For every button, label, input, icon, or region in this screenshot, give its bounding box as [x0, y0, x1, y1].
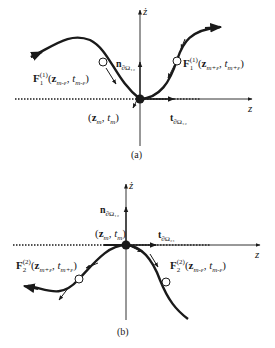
tangent-sub: ∂Ω₁₂	[173, 118, 187, 126]
point-zsub: m	[97, 118, 102, 126]
normal-label-a: n∂Ω₁₂	[116, 59, 135, 69]
point-label-a: (zm, tm)	[88, 112, 119, 123]
t-sub: m-ε	[212, 266, 222, 274]
tangent-label-b: t∂Ω₂₁	[158, 230, 175, 240]
F-sup: (1)	[190, 56, 198, 64]
F-sup: (2)	[177, 258, 185, 266]
curve-arrow-right-a	[205, 27, 221, 28]
point-zsub: m	[104, 234, 109, 242]
y-axis-label-a: ż	[143, 6, 147, 17]
switching-point-b	[122, 241, 131, 250]
x-axis-label-b: z	[255, 249, 259, 260]
open-point-right-a	[173, 57, 181, 65]
t-sub: m+ε	[228, 64, 241, 72]
normal-sub: ∂Ω₁₂	[106, 210, 120, 218]
open-point-left-b	[75, 275, 83, 283]
left-flow-label-a: F(1)1(zm-ε, tm-ε)	[33, 71, 89, 87]
point-tsub: m	[110, 118, 115, 126]
z-sub: m-ε	[193, 266, 203, 274]
F-sup: (1)	[40, 71, 48, 79]
open-point-right-b	[162, 278, 170, 286]
F-sup: (2)	[23, 258, 31, 266]
left-flow-label-b: F(2)2(zm+ε, tm+ε)	[16, 258, 77, 274]
t-sub: m-ε	[75, 79, 85, 87]
right-flow-label-b: F(2)2(zm-ε, tm-ε)	[170, 258, 226, 274]
z-sub: m+ε	[206, 64, 219, 72]
panel-b	[13, 184, 260, 320]
normal-label-b: n∂Ω₁₂	[100, 205, 119, 215]
x-axis-label-a: z	[248, 103, 252, 114]
tangent-sub: ∂Ω₂₁	[161, 235, 175, 243]
open-point-left-a	[99, 58, 107, 66]
F: F	[170, 259, 177, 271]
right-flow-label-a: F(1)1(zm+ε, tm+ε)	[183, 56, 244, 72]
normal-sub: ∂Ω₁₂	[122, 64, 136, 72]
tangent-label-a: t∂Ω₁₂	[170, 113, 187, 123]
z-sub: m+ε	[39, 266, 52, 274]
F-sub: 2	[23, 266, 31, 274]
z-sub: m-ε	[56, 79, 66, 87]
diagram-canvas	[0, 0, 275, 348]
F: F	[33, 72, 40, 84]
caption-a: (a)	[131, 150, 142, 160]
point-label-b: (zm, tm)	[95, 228, 126, 239]
F-sub: 1	[40, 79, 48, 87]
F-sub: 1	[190, 64, 198, 72]
curve-arrow-left-a	[31, 52, 42, 57]
F: F	[16, 259, 23, 271]
switching-point-a	[136, 95, 145, 104]
point-tsub: m	[117, 234, 122, 242]
F: F	[183, 57, 190, 69]
F-sub: 2	[177, 266, 185, 274]
caption-b: (b)	[117, 327, 129, 337]
t-sub: m+ε	[61, 266, 74, 274]
y-axis-label-b: ż	[129, 180, 133, 191]
